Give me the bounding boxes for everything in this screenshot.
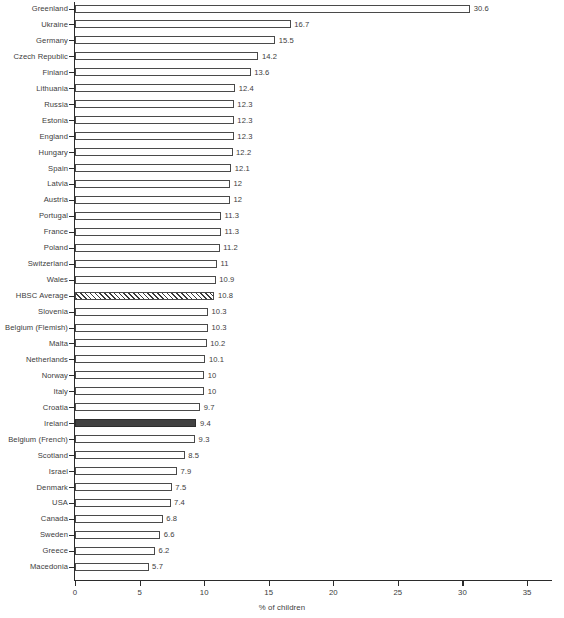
x-axis-tick [333, 581, 334, 586]
bar-value-label: 10.2 [210, 337, 225, 351]
category-label: Macedonia [0, 560, 68, 574]
bar-row: Latvia12 [0, 177, 564, 191]
category-label: Canada [0, 512, 68, 526]
category-label: Poland [0, 241, 68, 255]
bar-value-label: 12 [233, 177, 242, 191]
bar [75, 244, 220, 252]
x-axis-tick-label: 35 [507, 588, 547, 597]
bar-row: Denmark7.5 [0, 481, 564, 495]
bar-row: Poland11.2 [0, 241, 564, 255]
bar [75, 180, 230, 188]
category-label: Israel [0, 465, 68, 479]
bar-value-label: 8.5 [188, 449, 199, 463]
bar [75, 435, 195, 443]
bar-value-label: 5.7 [152, 560, 163, 574]
category-label: Switzerland [0, 257, 68, 271]
category-label: Ukraine [0, 18, 68, 32]
category-label: England [0, 130, 68, 144]
bar-row: France11.3 [0, 225, 564, 239]
bar-row: Ireland9.4 [0, 417, 564, 431]
bar-row: Scotland8.5 [0, 449, 564, 463]
bar-value-label: 11.2 [223, 241, 238, 255]
category-label: France [0, 225, 68, 239]
category-label: Belgium (French) [0, 433, 68, 447]
bar-row: Canada6.8 [0, 512, 564, 526]
bar-row: Austria12 [0, 193, 564, 207]
bar-row: Switzerland11 [0, 257, 564, 271]
category-label: Croatia [0, 401, 68, 415]
bar-row: HBSC Average10.8 [0, 289, 564, 303]
bar-value-label: 6.8 [166, 512, 177, 526]
bar [75, 483, 172, 491]
bar [75, 355, 205, 363]
bar [75, 339, 207, 347]
x-axis-tick-label: 20 [313, 588, 353, 597]
bar-row: Russia12.3 [0, 98, 564, 112]
x-axis-tick [527, 581, 528, 586]
category-label: Spain [0, 162, 68, 176]
bar-row: Lithuania12.4 [0, 82, 564, 96]
bar-value-label: 13.6 [254, 66, 269, 80]
bar-row: Estonia12.3 [0, 114, 564, 128]
bar [75, 547, 155, 555]
bar-row: Sweden6.6 [0, 528, 564, 542]
category-label: Germany [0, 34, 68, 48]
bar-value-label: 16.7 [294, 18, 309, 32]
bar [75, 5, 470, 13]
category-label: Malta [0, 337, 68, 351]
category-label: Belgium (Flemish) [0, 321, 68, 335]
x-axis-tick-label: 15 [249, 588, 289, 597]
x-axis-tick [204, 581, 205, 586]
bar-row: Wales10.9 [0, 273, 564, 287]
bar [75, 387, 204, 395]
bar [75, 260, 217, 268]
category-label: Ireland [0, 417, 68, 431]
x-axis-tick-label: 30 [442, 588, 482, 597]
horizontal-bar-chart: Greenland30.6Ukraine16.7Germany15.5Czech… [0, 0, 564, 618]
category-label: Estonia [0, 114, 68, 128]
bar [75, 419, 196, 427]
bar-row: England12.3 [0, 130, 564, 144]
bar-value-label: 7.9 [181, 465, 192, 479]
bar-value-label: 6.6 [164, 528, 175, 542]
x-axis-tick [398, 581, 399, 586]
bar [75, 292, 214, 300]
bar [75, 403, 200, 411]
bar-row: Germany15.5 [0, 34, 564, 48]
bar [75, 228, 221, 236]
category-label: Finland [0, 66, 68, 80]
category-label: Greenland [0, 2, 68, 16]
bar-value-label: 12.3 [237, 130, 252, 144]
bar-row: Malta10.2 [0, 337, 564, 351]
bar-row: Macedonia5.7 [0, 560, 564, 574]
x-axis-title: % of children [0, 603, 564, 612]
bar-row: Ukraine16.7 [0, 18, 564, 32]
bar [75, 148, 233, 156]
bar-row: Finland13.6 [0, 66, 564, 80]
bar-value-label: 7.4 [174, 496, 185, 510]
bar-row: Croatia9.7 [0, 401, 564, 415]
x-axis-tick-label: 5 [120, 588, 160, 597]
bar-row: Spain12.1 [0, 162, 564, 176]
bar-row: Czech Republic14.2 [0, 50, 564, 64]
bar-value-label: 11 [221, 257, 229, 271]
bar [75, 324, 208, 332]
bar [75, 467, 177, 475]
bar-value-label: 15.5 [279, 34, 294, 48]
category-label: Hungary [0, 146, 68, 160]
bar-row: Italy10 [0, 385, 564, 399]
category-label: Wales [0, 273, 68, 287]
bar-value-label: 10.3 [212, 305, 227, 319]
bar-value-label: 11.3 [224, 225, 239, 239]
bar [75, 371, 204, 379]
bar-row: Greenland30.6 [0, 2, 564, 16]
category-label: Lithuania [0, 82, 68, 96]
bar [75, 515, 163, 523]
bar [75, 212, 221, 220]
bar [75, 531, 160, 539]
bar [75, 499, 171, 507]
category-label: Czech Republic [0, 50, 68, 64]
bar-value-label: 7.5 [175, 481, 186, 495]
x-axis-tick [75, 581, 76, 586]
category-label: Sweden [0, 528, 68, 542]
